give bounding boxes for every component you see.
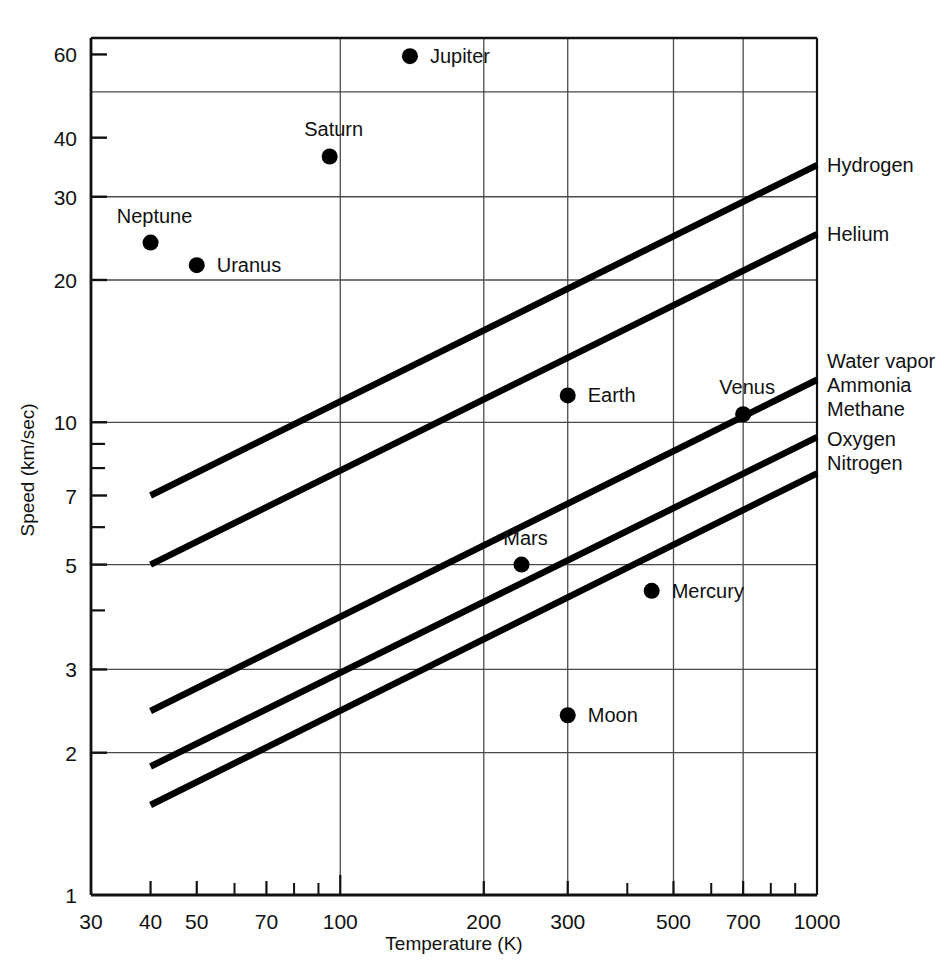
x-tick-label-1000: 1000 — [794, 910, 841, 933]
point-label-moon: Moon — [588, 704, 638, 726]
point-label-mercury: Mercury — [672, 580, 744, 602]
point-saturn — [322, 148, 338, 164]
y-tick-label-2: 2 — [65, 742, 77, 765]
x-tick-label-200: 200 — [466, 910, 501, 933]
figure-background — [0, 0, 947, 978]
x-tick-label-50: 50 — [185, 910, 208, 933]
point-label-earth: Earth — [588, 384, 636, 406]
y-tick-label-40: 40 — [54, 127, 77, 150]
x-axis-title: Temperature (K) — [385, 933, 522, 954]
x-tick-label-700: 700 — [726, 910, 761, 933]
x-tick-label-30: 30 — [79, 910, 102, 933]
gas-label-water-vapor: Water vapor — [827, 350, 936, 372]
y-tick-label-20: 20 — [54, 269, 77, 292]
point-label-mars: Mars — [503, 527, 547, 549]
gas-label-hydrogen: Hydrogen — [827, 154, 914, 176]
chart-figure: JupiterSaturnNeptuneUranusEarthVenusMars… — [0, 0, 947, 978]
x-tick-label-100: 100 — [323, 910, 358, 933]
y-tick-label-7: 7 — [65, 485, 77, 508]
point-jupiter — [402, 48, 418, 64]
point-mars — [514, 557, 530, 573]
y-axis-title: Speed (km/sec) — [17, 403, 38, 536]
x-tick-label-70: 70 — [255, 910, 278, 933]
gas-label-nitrogen: Nitrogen — [827, 452, 903, 474]
y-tick-label-60: 60 — [54, 43, 77, 66]
point-neptune — [143, 235, 159, 251]
gas-label-methane: Methane — [827, 398, 905, 420]
gas-label-oxygen: Oxygen — [827, 428, 896, 450]
point-moon — [560, 707, 576, 723]
point-earth — [560, 387, 576, 403]
point-label-jupiter: Jupiter — [430, 45, 490, 67]
point-uranus — [189, 257, 205, 273]
y-tick-label-3: 3 — [65, 658, 77, 681]
gas-label-ammonia: Ammonia — [827, 374, 912, 396]
point-mercury — [644, 583, 660, 599]
x-tick-label-500: 500 — [656, 910, 691, 933]
x-tick-label-300: 300 — [550, 910, 585, 933]
point-label-saturn: Saturn — [304, 118, 363, 140]
chart-svg: JupiterSaturnNeptuneUranusEarthVenusMars… — [0, 0, 947, 978]
y-tick-label-5: 5 — [65, 554, 77, 577]
y-tick-label-30: 30 — [54, 186, 77, 209]
point-label-venus: Venus — [719, 376, 775, 398]
gas-label-helium: Helium — [827, 223, 889, 245]
point-venus — [735, 406, 751, 422]
point-label-uranus: Uranus — [217, 254, 281, 276]
x-tick-label-40: 40 — [139, 910, 162, 933]
y-tick-label-10: 10 — [54, 411, 77, 434]
y-tick-label-1: 1 — [65, 884, 77, 907]
point-label-neptune: Neptune — [117, 205, 193, 227]
